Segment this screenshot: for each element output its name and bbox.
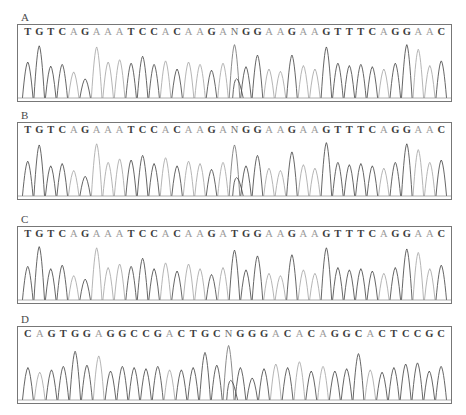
base-call: C (58, 123, 66, 136)
base-call: A (265, 123, 273, 136)
base-call: T (357, 25, 364, 38)
base-call: G (403, 227, 411, 240)
basecall-row-b: TGTCAGAAATCCACAAGANGGAAGAAGTTTCAGGAAC (18, 123, 451, 136)
base-call: A (162, 25, 170, 38)
base-call: A (219, 25, 227, 38)
base-call: G (207, 123, 215, 136)
trace-plot-d (18, 340, 451, 403)
base-call: A (277, 25, 285, 38)
base-call: G (35, 227, 43, 240)
base-call: A (196, 25, 204, 38)
trace-svg (18, 240, 451, 303)
base-call: T (357, 123, 364, 136)
base-call: A (116, 123, 124, 136)
base-call: G (118, 327, 126, 340)
base-call: C (139, 123, 147, 136)
base-call: A (104, 227, 112, 240)
base-call: A (185, 25, 193, 38)
base-call: A (70, 25, 78, 38)
base-call: A (219, 123, 227, 136)
base-call: A (104, 25, 112, 38)
base-call: G (391, 25, 399, 38)
base-call: C (58, 25, 66, 38)
trace-plot-b (18, 136, 451, 199)
panel-frame-a: TGTCAGAAATCCACAAGANGGAAGAAGTTTCAGGAAC (17, 24, 452, 102)
base-call: T (24, 123, 31, 136)
trace-line-mid (229, 145, 240, 196)
trace-line-mid (223, 345, 234, 400)
base-call: T (60, 327, 67, 340)
base-call: A (116, 25, 124, 38)
base-call: A (277, 123, 285, 136)
panel-label-d: D (21, 314, 29, 325)
base-call: A (116, 227, 124, 240)
base-call: C (437, 327, 445, 340)
base-call: C (437, 25, 445, 38)
base-call: T (128, 123, 135, 136)
basecall-row-d: CAGTGGAGGCCGACTGCNGGGACACAGGCACTCCGC (18, 327, 451, 340)
base-call: G (253, 123, 261, 136)
base-call: A (414, 123, 422, 136)
panel-frame-c: TGTCAGAAATCCACAAGATGGAAGAAGTTTCAGGAAC (17, 226, 452, 304)
base-call: C (213, 327, 221, 340)
base-call: A (162, 227, 170, 240)
base-call: G (322, 25, 330, 38)
base-call: A (162, 123, 170, 136)
trace-line-light (68, 144, 435, 196)
base-call: T (346, 227, 353, 240)
base-call: A (300, 25, 308, 38)
base-call: G (288, 227, 296, 240)
base-call: C (369, 123, 377, 136)
base-call: G (106, 327, 114, 340)
base-call: C (150, 123, 158, 136)
panel-label-b: B (21, 110, 29, 121)
base-call: G (248, 327, 256, 340)
panel-label-a: A (21, 12, 29, 23)
base-call: T (346, 123, 353, 136)
base-call: C (139, 25, 147, 38)
base-call: G (35, 123, 43, 136)
base-call: A (380, 25, 388, 38)
base-call: T (47, 25, 54, 38)
base-call: T (390, 327, 397, 340)
trace-svg (18, 38, 451, 101)
panel-frame-d: CAGTGGAGGCCGACTGCNGGGACACAGGCACTCCGC (17, 326, 452, 404)
panel-frame-b: TGTCAGAAATCCACAAGANGGAAGAAGTTTCAGGAAC (17, 122, 452, 200)
base-call: A (277, 227, 285, 240)
base-call: A (185, 123, 193, 136)
base-call: C (378, 327, 386, 340)
base-call: G (343, 327, 351, 340)
base-call: T (334, 25, 341, 38)
base-call: C (284, 327, 292, 340)
base-call: C (355, 327, 363, 340)
base-call: A (414, 25, 422, 38)
base-call: A (70, 227, 78, 240)
base-call: A (426, 25, 434, 38)
base-call: T (334, 227, 341, 240)
base-call: T (128, 25, 135, 38)
base-call: T (334, 123, 341, 136)
base-call: T (47, 123, 54, 136)
base-call: A (196, 227, 204, 240)
base-call: C (173, 227, 181, 240)
base-call: G (207, 227, 215, 240)
base-call: A (95, 327, 103, 340)
base-call: A (311, 123, 319, 136)
base-call: G (35, 25, 43, 38)
base-call: A (366, 327, 374, 340)
base-call: A (36, 327, 44, 340)
base-call: G (322, 123, 330, 136)
base-call: T (47, 227, 54, 240)
chromatogram-figure: A TGTCAGAAATCCACAAGANGGAAGAAGTTTCAGGAAC … (0, 0, 466, 415)
base-call: G (71, 327, 79, 340)
base-call: G (47, 327, 55, 340)
base-call: G (242, 227, 250, 240)
base-call: C (173, 25, 181, 38)
trace-svg (18, 136, 451, 199)
base-call: G (403, 25, 411, 38)
base-call: C (173, 123, 181, 136)
base-call: T (24, 25, 31, 38)
base-call: A (219, 227, 227, 240)
base-call: T (357, 227, 364, 240)
base-call: A (196, 123, 204, 136)
